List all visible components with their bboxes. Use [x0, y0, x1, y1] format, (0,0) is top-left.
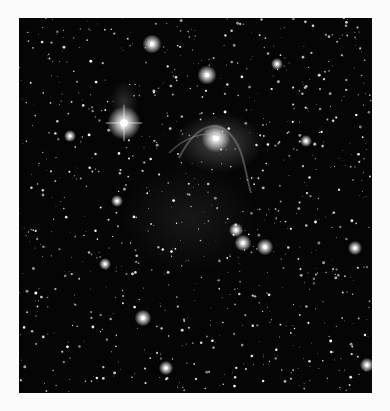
star-field-image — [19, 18, 372, 393]
night-sky-canvas — [19, 18, 372, 393]
